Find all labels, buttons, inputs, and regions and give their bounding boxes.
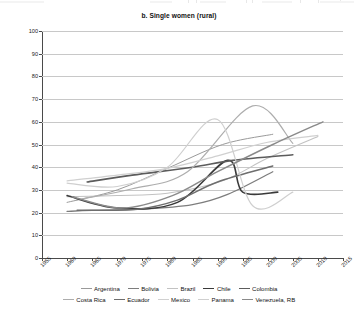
y-tick-label: 80 (12, 73, 38, 79)
y-tick-mark (39, 235, 42, 236)
legend-label: Bolivia (141, 286, 159, 292)
legend-label: Colombia (252, 286, 277, 292)
artifact-smudge (262, 1, 292, 3)
y-tick-label: 40 (12, 164, 38, 170)
y-tick-label: 70 (12, 96, 38, 102)
y-tick-mark (39, 122, 42, 123)
y-tick-mark (39, 213, 42, 214)
y-tick-label: 10 (12, 232, 38, 238)
legend-swatch-icon (203, 288, 214, 289)
legend-item-chile[interactable]: Chile (203, 286, 230, 292)
artifact-tick (196, 0, 197, 3)
legend-label: Mexico (171, 297, 190, 303)
legend-label: Venezuela, RB (255, 297, 295, 303)
y-tick-label: 60 (12, 119, 38, 125)
y-tick-mark (39, 99, 42, 100)
y-tick-label: 50 (12, 142, 38, 148)
legend-item-panama[interactable]: Panama (198, 297, 234, 303)
legend-row: ArgentinaBoliviaBrazilChileColombia (0, 283, 358, 294)
y-tick-mark (39, 190, 42, 191)
y-tick-label: 100 (12, 28, 38, 34)
legend-item-ecuador[interactable]: Ecuador (114, 297, 150, 303)
y-tick-label: 0 (12, 255, 38, 261)
legend-swatch-icon (239, 288, 250, 289)
chart-title: b. Single women (rural) (0, 12, 358, 19)
legend-label: Costa Rica (76, 297, 105, 303)
y-tick-label: 30 (12, 187, 38, 193)
legend-item-brazil[interactable]: Brazil (167, 286, 196, 292)
artifact-tick (188, 0, 189, 3)
legend-swatch-icon (167, 288, 178, 289)
artifact-smudge (320, 1, 354, 3)
legend-item-mexico[interactable]: Mexico (158, 297, 191, 303)
chart-legend: ArgentinaBoliviaBrazilChileColombiaCosta… (0, 283, 358, 305)
series-line-costa-rica (82, 105, 293, 198)
y-tick-label: 20 (12, 210, 38, 216)
legend-swatch-icon (81, 288, 92, 289)
legend-swatch-icon (242, 299, 253, 300)
legend-item-venezuela-rb[interactable]: Venezuela, RB (242, 297, 295, 303)
y-tick-mark (39, 31, 42, 32)
artifact-tick (252, 0, 253, 3)
legend-swatch-icon (114, 299, 125, 300)
plot-area (42, 31, 343, 258)
y-axis-tick-labels: 0102030405060708090100 (8, 31, 38, 259)
legend-item-bolivia[interactable]: Bolivia (128, 286, 159, 292)
legend-label: Brazil (180, 286, 195, 292)
y-tick-mark (39, 258, 42, 259)
legend-swatch-icon (198, 299, 209, 300)
artifact-smudge (0, 1, 44, 3)
artifact-tick (300, 0, 301, 3)
y-tick-mark (39, 167, 42, 168)
series-line-venezuela-rb (72, 122, 323, 208)
artifact-tick (318, 0, 319, 3)
artifact-tick (246, 0, 247, 3)
y-tick-mark (39, 145, 42, 146)
legend-label: Argentina (94, 286, 120, 292)
artifact-smudge (200, 1, 226, 3)
series-line-mexico (67, 135, 318, 180)
y-tick-label: 90 (12, 51, 38, 57)
series-lines (42, 31, 343, 258)
legend-item-argentina[interactable]: Argentina (81, 286, 120, 292)
artifact-smudge (150, 1, 172, 3)
cropped-page-artifact (0, 0, 358, 6)
legend-swatch-icon (128, 288, 139, 289)
legend-row: Costa RicaEcuadorMexicoPanamaVenezuela, … (0, 294, 358, 305)
legend-item-costa-rica[interactable]: Costa Rica (63, 297, 106, 303)
legend-item-colombia[interactable]: Colombia (239, 286, 278, 292)
legend-swatch-icon (63, 299, 74, 300)
y-tick-mark (39, 54, 42, 55)
y-tick-mark (39, 76, 42, 77)
chart-figure: b. Single women (rural) Percent 01020304… (0, 0, 358, 316)
legend-label: Panama (212, 297, 234, 303)
legend-swatch-icon (158, 299, 169, 300)
legend-label: Ecuador (127, 297, 149, 303)
legend-label: Chile (217, 286, 231, 292)
